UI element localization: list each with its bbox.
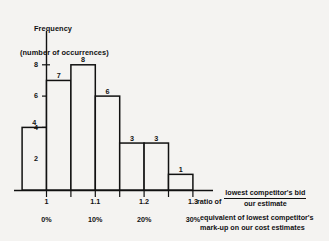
ratio-denominator: our estimate: [224, 199, 306, 209]
ratio-fraction: lowest competitor's bid our estimate: [224, 188, 306, 208]
bar-2: [47, 80, 71, 190]
bar-value-5: 3: [125, 135, 139, 143]
bar-3: [71, 65, 95, 190]
pct-label-20: 20%: [131, 216, 157, 224]
markup-line-1: equivalent of lowest competitor's: [200, 213, 314, 223]
bar-value-1: 4: [27, 119, 41, 127]
bar-7: [169, 174, 193, 190]
bar-5: [120, 143, 144, 190]
bar-value-3: 8: [76, 56, 90, 64]
bar-value-6: 3: [149, 135, 163, 143]
histogram-figure: Frequency (number of occurrences): [0, 0, 329, 241]
bar-value-7: 1: [174, 166, 188, 174]
pct-label-10: 10%: [82, 216, 108, 224]
ratio-annotation: ratio of lowest competitor's bid our est…: [197, 188, 306, 208]
bar-value-4: 6: [101, 88, 115, 96]
x-tick-label-1-1: 1.1: [83, 198, 107, 206]
y-tick-label-8: 8: [26, 61, 38, 69]
bar-4: [95, 96, 119, 190]
pct-label-0: 0%: [34, 216, 60, 224]
bar-value-2: 7: [52, 72, 66, 80]
bar-6: [144, 143, 168, 190]
markup-annotation: equivalent of lowest competitor's mark-u…: [200, 213, 314, 234]
ratio-prefix-label: ratio of: [197, 190, 224, 206]
x-tick-label-1-2: 1.2: [132, 198, 156, 206]
x-tick-label-1: 1: [35, 198, 59, 206]
y-tick-label-6: 6: [26, 92, 38, 100]
y-tick-label-2: 2: [26, 155, 38, 163]
ratio-numerator: lowest competitor's bid: [224, 188, 306, 199]
markup-line-2: mark-up on our cost estimates: [200, 223, 314, 233]
histogram-bars: [22, 65, 193, 190]
